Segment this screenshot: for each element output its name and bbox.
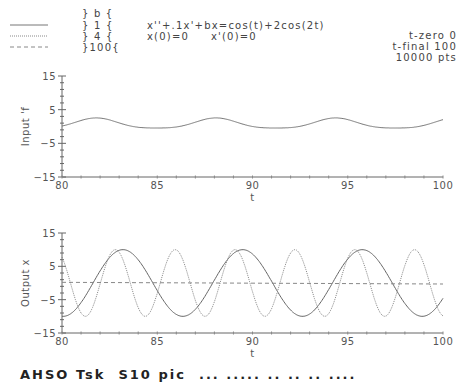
y-tick-label: −5: [40, 138, 56, 149]
x-tick-label: 95: [341, 336, 355, 347]
x-axis-label: t: [250, 348, 254, 359]
input-series-line: [62, 118, 443, 128]
x-tick-label: 90: [246, 180, 260, 191]
output-series-b100: [62, 282, 443, 284]
x-tick-label: 80: [55, 336, 69, 347]
y-tick-label: −15: [33, 172, 56, 183]
y-tick-label: 5: [49, 105, 56, 116]
y-tick-label: −15: [33, 328, 56, 339]
x-tick-label: 95: [341, 180, 355, 191]
y-tick-label: 15: [42, 228, 56, 239]
x-tick-label: 100: [433, 180, 454, 191]
y-tick-label: 5: [49, 261, 56, 272]
cutoff-caption: AHSO Tsk S10 pic ... ..... .. .. .. ....: [20, 367, 356, 382]
output-plot: 155−5−1580859095100tOutput x: [20, 228, 453, 359]
y-tick-label: 15: [42, 71, 56, 82]
y-axis-label: Output x: [20, 259, 31, 307]
input-plot: 155−5−1580859095100tInput 'f: [20, 71, 453, 203]
x-tick-label: 85: [150, 180, 164, 191]
x-tick-label: 100: [433, 336, 454, 347]
x-tick-label: 90: [246, 336, 260, 347]
y-tick-label: −5: [40, 295, 56, 306]
y-axis-label: Input 'f: [20, 107, 31, 146]
x-tick-label: 80: [55, 180, 69, 191]
x-axis-label: t: [250, 192, 254, 203]
x-tick-label: 85: [150, 336, 164, 347]
